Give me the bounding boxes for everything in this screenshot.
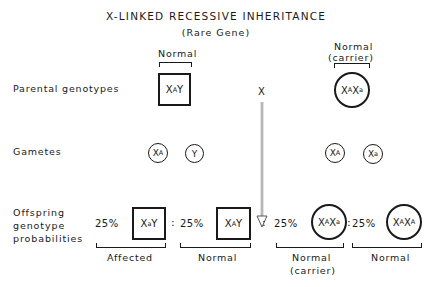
offspring-4-bracket [352,243,422,248]
offspring-1-square: XaY [132,207,166,240]
father-square: XAY [158,73,191,106]
row-label-offspring: Offspring genotype probabilities [13,206,83,245]
gamete-father-y: Y [185,144,204,163]
offspring-3-phenotype: Normal [292,252,331,263]
diagram-subtitle: (Rare Gene) [0,27,432,38]
ratio-separator-1: : [171,216,175,229]
row-label-gametes: Gametes [13,146,61,157]
gamete-father-xa: XA [148,143,168,163]
offspring-1-bracket [96,243,166,248]
ratio-separator-2: : [262,216,266,229]
offspring-1-phenotype: Affected [107,252,153,263]
gamete-mother-xa: Xa [363,144,383,164]
offspring-4-circle: XAXA [386,204,422,240]
offspring-3-percent: 25% [274,218,298,229]
offspring-2-percent: 25% [180,218,204,229]
offspring-1-percent: 25% [95,218,119,229]
offspring-3-carrier: (carrier) [290,265,336,276]
father-bracket [159,62,192,67]
diagram-title: X-LINKED RECESSIVE INHERITANCE [0,10,432,22]
offspring-3-bracket [276,243,344,248]
gamete-mother-xA: XA [325,143,345,163]
offspring-2-bracket [180,243,251,248]
down-arrow-icon [254,100,270,230]
father-phenotype-label: Normal [158,48,197,59]
offspring-4-percent: 25% [352,218,376,229]
ratio-separator-3: : [347,216,351,229]
offspring-2-phenotype: Normal [198,252,237,263]
offspring-3-circle: XAXa [311,204,347,240]
cross-symbol: X [258,86,266,97]
mother-phenotype-label: Normal [334,41,370,52]
mother-circle: XAXa [334,72,370,108]
row-label-parental: Parental genotypes [13,83,119,94]
offspring-4-phenotype: Normal [371,252,410,263]
offspring-2-square: XAY [216,207,251,240]
mother-bracket [334,63,370,68]
mother-carrier-label: (carrier) [328,52,374,63]
